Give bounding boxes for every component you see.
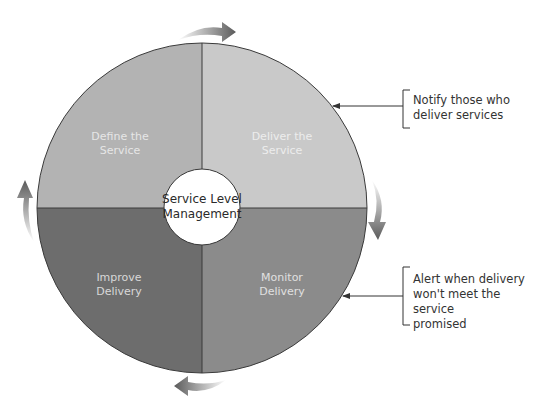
label-line: Service [70, 144, 170, 158]
callout-line: promised [413, 317, 544, 332]
callout-line: Alert when delivery [413, 272, 544, 287]
callout-line: won't meet the service [413, 287, 544, 317]
label-line: Monitor [232, 271, 332, 285]
callout-line: deliver services [413, 108, 510, 123]
cycle-arrow-left-icon [17, 180, 34, 242]
callout-notify-connector [332, 90, 410, 128]
label-define-service: Define the Service [70, 130, 170, 158]
label-monitor-delivery: Monitor Delivery [232, 271, 332, 299]
label-line: Improve [69, 271, 169, 285]
label-improve-delivery: Improve Delivery [69, 271, 169, 299]
label-line: Deliver the [232, 130, 332, 144]
cycle-arrow-bottom-icon [174, 376, 226, 396]
callout-notify-text: Notify those who deliver services [413, 93, 510, 123]
label-line: Delivery [69, 285, 169, 299]
label-deliver-service: Deliver the Service [232, 130, 332, 158]
callout-alert-text: Alert when delivery won't meet the servi… [413, 272, 544, 332]
label-line: Define the [70, 130, 170, 144]
label-line: Service [232, 144, 332, 158]
cycle-diagram [0, 0, 544, 411]
cycle-arrow-top-icon [178, 22, 236, 42]
center-label-line: Service Level [162, 192, 242, 207]
cycle-arrow-right-icon [368, 180, 386, 240]
callout-line: Notify those who [413, 93, 510, 108]
center-label-line: Management [162, 207, 242, 222]
label-line: Delivery [232, 285, 332, 299]
center-label: Service Level Management [162, 192, 242, 222]
